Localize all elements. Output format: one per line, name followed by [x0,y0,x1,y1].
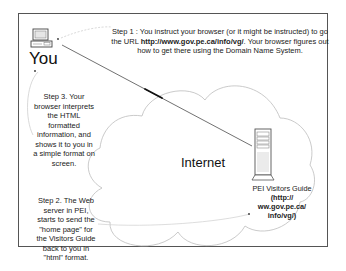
you-label: You [29,50,58,68]
desktop-computer-icon [31,29,52,47]
server-url-line2: ww.gov.pe.ca/ [246,202,318,211]
step1-arrow [61,27,112,38]
step1-arrow-dot [57,38,59,40]
step3-arrow-dot [34,70,36,72]
server-url-line3: info/vg/) [246,211,318,220]
step1-text: Step 1 : You instruct your browser (or i… [110,27,330,56]
internet-label: Internet [181,156,225,170]
step2-text: Step 2. The Web server in PEI, starts to… [34,196,98,263]
server-name: PEI Visitors Guide [246,184,318,193]
tower-server-icon [252,129,274,180]
connection-line-thick [145,89,162,98]
step2-arrow [98,214,250,225]
step3-text: Step 3. Your browser interprets the HTML… [33,92,95,168]
server-url-line1: (http:// [246,193,318,202]
server-label: PEI Visitors Guide (http:// ww.gov.pe.ca… [246,184,318,220]
step1-url: http://www.gov.pe.ca/info/vg/ [141,37,244,46]
